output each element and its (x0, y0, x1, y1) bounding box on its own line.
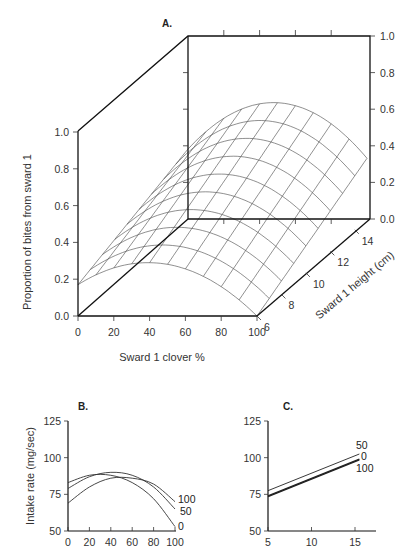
left-depth-edge (78, 219, 188, 316)
panel-b-x-tick-label: 20 (84, 536, 96, 548)
panel-c: C. 507510012551015 50 0 100 (243, 401, 376, 548)
back-top-frame (78, 36, 370, 219)
panel-c-series-label-0: 0 (361, 450, 367, 462)
panel-b-y-tick-label: 125 (43, 415, 61, 427)
z-tick-label-right: 0.4 (380, 140, 395, 152)
z-tick-label-right: 1.0 (380, 30, 395, 42)
panel-b-y-tick-label: 75 (49, 488, 61, 500)
panel-b-series-label-50: 50 (180, 505, 192, 517)
panel-c-series-label-100: 100 (356, 462, 374, 474)
panel-c-y-tick-label: 50 (249, 525, 261, 537)
depth-axis-line (257, 219, 370, 316)
mesh-line-height (90, 245, 269, 299)
x-axis-title: Sward 1 clover % (119, 351, 205, 363)
panel-c-axes (268, 421, 376, 531)
panel-c-y-tick-label: 100 (243, 452, 261, 464)
panel-c-line-50 (268, 454, 359, 491)
x-tick-label: 80 (215, 326, 227, 338)
depth-tick-label: 12 (337, 256, 349, 268)
panel-c-line-0 (268, 459, 359, 496)
panel-c-y-tick-label: 75 (249, 488, 261, 500)
depth-axis-title: Sward 1 height (cm) (313, 249, 396, 321)
z-tick-label-right: 0.8 (380, 67, 395, 79)
mesh-line-clover (132, 109, 242, 264)
panel-b-tick-labels: 5075100125020406080100 (43, 415, 183, 548)
panel-b-x-tick-label: 40 (105, 536, 117, 548)
panel-c-x-tick-label: 15 (349, 536, 361, 548)
panel-b: B. 5075100125020406080100 Intake rate (m… (24, 401, 196, 548)
panel-b-series-label-100: 100 (178, 493, 196, 505)
z-tick-label-left: 0.6 (54, 200, 69, 212)
z-tick-label-left: 1.0 (54, 126, 69, 138)
panel-b-ticks (64, 421, 175, 531)
mesh-line-clover (203, 113, 313, 277)
panel-b-x-tick-label: 100 (166, 536, 184, 548)
z-axis-title: Proportion of bites from sward 1 (21, 154, 33, 310)
panel-a-label: A. (162, 18, 172, 29)
mesh-line-height (78, 263, 257, 316)
x-tick-label: 20 (108, 326, 120, 338)
z-tick-label-left: 0.4 (54, 236, 69, 248)
panel-b-axes (68, 421, 176, 531)
mesh-line-height (115, 210, 294, 264)
depth-tick-label: 14 (362, 235, 374, 247)
panel-b-label: B. (78, 401, 88, 412)
z-tick-label-left: 0.2 (54, 273, 69, 285)
panel-c-label: C. (283, 401, 293, 412)
mesh-line-clover (96, 132, 206, 275)
figure: A. 0.00.00.20.20.40.40.60.60.80.81.01.00… (0, 0, 411, 550)
panel-c-lines (268, 454, 359, 497)
panel-c-y-tick-label: 125 (243, 415, 261, 427)
panel-b-x-tick-label: 60 (126, 536, 138, 548)
panel-b-series-label-0: 0 (178, 520, 184, 532)
depth-tick-label: 8 (288, 299, 294, 311)
z-tick-label-right: 0.0 (380, 213, 395, 225)
x-tick-label: 60 (180, 326, 192, 338)
panel-b-y-tick-label: 50 (49, 525, 61, 537)
panel-a-ticks (73, 30, 375, 321)
mesh-line-clover (221, 124, 331, 287)
panel-b-y-tick-label: 100 (43, 452, 61, 464)
panel-b-y-title: Intake rate (mg/sec) (24, 427, 36, 525)
mesh-line-height (102, 227, 281, 281)
x-tick-label: 0 (75, 326, 81, 338)
panel-c-x-tick-label: 10 (306, 536, 318, 548)
depth-tick-label: 6 (264, 321, 270, 333)
z-tick-label-left: 0.0 (54, 310, 69, 322)
panel-a: A. 0.00.00.20.20.40.40.60.60.80.81.01.00… (21, 18, 396, 363)
x-tick-label: 40 (144, 326, 156, 338)
panel-b-curve-100 (68, 477, 175, 503)
mesh-line-clover (78, 149, 188, 285)
panel-b-x-tick-label: 80 (148, 536, 160, 548)
z-tick-label-right: 0.2 (380, 176, 395, 188)
z-tick-label-left: 0.8 (54, 163, 69, 175)
panel-b-x-tick-label: 0 (65, 536, 71, 548)
panel-c-ticks (264, 421, 355, 531)
panel-b-curve-0 (68, 474, 175, 526)
panel-b-curves (68, 472, 175, 526)
depth-tick-label: 10 (313, 278, 325, 290)
z-tick-label-right: 0.6 (380, 103, 395, 115)
panel-c-line-100 (268, 460, 359, 497)
panel-c-x-tick-label: 5 (265, 536, 271, 548)
